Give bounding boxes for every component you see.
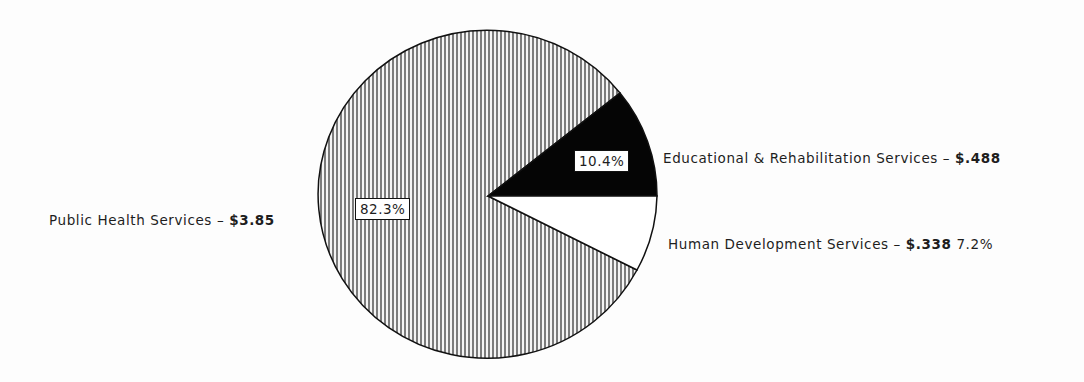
pie-chart [0, 0, 1084, 382]
label-amount: $.488 [955, 150, 1001, 166]
label-human-development: Human Development Services – $.338 7.2% [668, 236, 993, 252]
label-sep: – [938, 150, 955, 166]
label-amount: $3.85 [229, 212, 275, 228]
label-public-health: Public Health Services – $3.85 [49, 212, 275, 228]
label-pct: 7.2% [952, 236, 994, 252]
label-sep: – [212, 212, 229, 228]
pct-label-educational: 10.4% [574, 150, 629, 172]
label-sep: – [889, 236, 906, 252]
pct-label-public-health: 82.3% [355, 198, 410, 220]
label-educational: Educational & Rehabilitation Services – … [663, 150, 1001, 166]
label-amount: $.338 [906, 236, 952, 252]
label-name: Educational & Rehabilitation Services [663, 150, 938, 166]
label-name: Public Health Services [49, 212, 212, 228]
label-name: Human Development Services [668, 236, 889, 252]
